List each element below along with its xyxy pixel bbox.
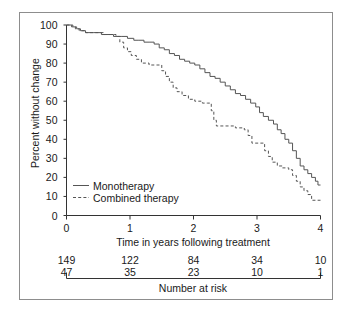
figure-container: Percent without change 01020304050607080… <box>0 0 346 317</box>
risk-table-cell: 149 <box>50 255 84 266</box>
risk-table-cell: 122 <box>113 255 147 266</box>
risk-table-cell: 34 <box>240 255 274 266</box>
curve-monotherapy <box>67 25 321 185</box>
y-tick-label: 40 <box>32 134 58 145</box>
y-tick-label: 50 <box>32 115 58 126</box>
y-tick-label: 0 <box>32 211 58 222</box>
risk-table-cell: 23 <box>177 267 211 278</box>
x-tick-label: 2 <box>184 223 204 234</box>
y-tick-label: 100 <box>32 20 58 31</box>
y-axis-label: Percent without change <box>30 58 41 168</box>
risk-table-cell: 47 <box>50 267 84 278</box>
curve-combined-therapy <box>67 25 321 200</box>
y-tick-label: 70 <box>32 77 58 88</box>
risk-table-cell: 10 <box>304 255 338 266</box>
risk-table-caption: Number at risk <box>63 283 323 294</box>
x-tick-label: 0 <box>57 223 77 234</box>
risk-table-cell: 1 <box>304 267 338 278</box>
x-tick-label: 1 <box>120 223 140 234</box>
legend-label-monotherapy: Monotherapy <box>93 181 154 192</box>
y-tick-label: 80 <box>32 58 58 69</box>
risk-table-cell: 84 <box>177 255 211 266</box>
y-tick-label: 60 <box>32 96 58 107</box>
y-tick-label: 20 <box>32 172 58 183</box>
x-tick-label: 4 <box>311 223 331 234</box>
legend-swatches <box>73 186 89 198</box>
x-axis-ticks <box>67 216 321 220</box>
y-tick-label: 10 <box>32 191 58 202</box>
legend-label-combined-therapy: Combined therapy <box>93 193 179 204</box>
x-axis-label: Time in years following treatment <box>63 237 323 248</box>
y-tick-label: 30 <box>32 153 58 164</box>
risk-table-cell: 35 <box>113 267 147 278</box>
y-tick-label: 90 <box>32 39 58 50</box>
risk-table-cell: 10 <box>240 267 274 278</box>
x-tick-label: 3 <box>247 223 267 234</box>
